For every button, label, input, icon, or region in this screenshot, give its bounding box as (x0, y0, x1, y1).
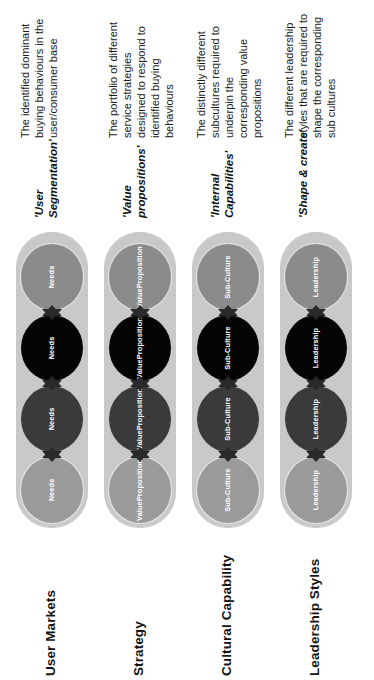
double-headed-arrow-4-2 (301, 376, 331, 391)
node-label-line: Sub-Culture (224, 255, 233, 298)
description-2: The portfolio of different service strat… (106, 6, 176, 138)
node-label-line: Leadership (312, 470, 321, 510)
node-1-2[interactable]: Needs (21, 386, 83, 452)
double-headed-arrow-1-3 (37, 305, 67, 320)
node-label-line: Leadership (312, 399, 321, 439)
arrow-head-right-icon (130, 305, 150, 316)
row-label-4: Leadership Styles (308, 530, 323, 676)
arrow-head-right-icon (218, 376, 238, 387)
double-headed-arrow-1-1 (37, 447, 67, 462)
node-label-line: Proposition (136, 246, 145, 288)
node-2-4[interactable]: ValueProposition (109, 244, 171, 310)
arrow-head-right-icon (42, 376, 62, 387)
node-label-line: Needs (48, 408, 57, 431)
node-1-4[interactable]: Needs (21, 244, 83, 310)
arrow-head-right-icon (218, 447, 238, 458)
node-2-3[interactable]: ValueProposition (109, 315, 171, 381)
node-4-4[interactable]: Leadership (285, 244, 347, 310)
arrow-head-right-icon (218, 305, 238, 316)
node-label-line: Needs (48, 337, 57, 360)
node-label-line: Sub-Culture (224, 397, 233, 440)
double-headed-arrow-2-2 (125, 376, 155, 391)
node-3-3[interactable]: Sub-Culture (197, 315, 259, 381)
node-label-line: Proposition (136, 317, 145, 359)
node-label-line: Needs (48, 266, 57, 289)
node-label-line: Sub-Culture (224, 468, 233, 511)
node-1-1[interactable]: Needs (21, 457, 83, 523)
double-headed-arrow-2-1 (125, 447, 155, 462)
double-headed-arrow-2-3 (125, 305, 155, 320)
double-headed-arrow-3-3 (213, 305, 243, 320)
double-headed-arrow-4-1 (301, 447, 331, 462)
node-4-1[interactable]: Leadership (285, 457, 347, 523)
arrow-head-right-icon (306, 376, 326, 387)
description-3: The distinctly different subcultures req… (194, 6, 264, 138)
row-label-3: Cultural Capability (220, 530, 235, 676)
node-3-1[interactable]: Sub-Culture (197, 457, 259, 523)
node-3-4[interactable]: Sub-Culture (197, 244, 259, 310)
double-headed-arrow-1-2 (37, 376, 67, 391)
description-4: The different leadership styles that are… (282, 6, 338, 138)
arrow-head-right-icon (130, 447, 150, 458)
node-label-line: Leadership (312, 257, 321, 297)
description-1: The identified dominant buying behaviour… (18, 6, 60, 138)
arrow-head-right-icon (130, 376, 150, 387)
node-label-line: Value (136, 501, 145, 521)
node-label-line: Leadership (312, 328, 321, 368)
double-headed-arrow-4-3 (301, 305, 331, 320)
node-label-line: Proposition (136, 459, 145, 501)
diagram-canvas: User MarketsNeedsNeedsNeedsNeeds'User Se… (0, 0, 374, 680)
node-1-3[interactable]: Needs (21, 315, 83, 381)
node-4-2[interactable]: Leadership (285, 386, 347, 452)
node-2-2[interactable]: ValueProposition (109, 386, 171, 452)
node-label-line: Sub-Culture (224, 326, 233, 369)
node-2-1[interactable]: ValueProposition (109, 457, 171, 523)
node-3-2[interactable]: Sub-Culture (197, 386, 259, 452)
arrow-head-right-icon (306, 305, 326, 316)
arrow-head-right-icon (306, 447, 326, 458)
node-label-line: Proposition (136, 388, 145, 430)
double-headed-arrow-3-2 (213, 376, 243, 391)
node-label-line: Needs (48, 479, 57, 502)
row-label-1: User Markets (44, 530, 59, 676)
node-4-3[interactable]: Leadership (285, 315, 347, 381)
arrow-head-right-icon (42, 305, 62, 316)
row-label-2: Strategy (132, 530, 147, 676)
double-headed-arrow-3-1 (213, 447, 243, 462)
arrow-head-right-icon (42, 447, 62, 458)
